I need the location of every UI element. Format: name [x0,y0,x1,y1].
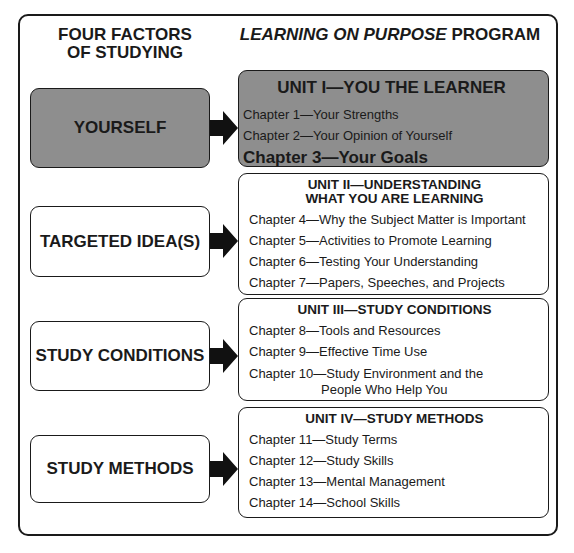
arrow-right-icon [210,452,238,486]
right-column-header: LEARNING ON PURPOSE PROGRAM [232,26,548,44]
program-name: LEARNING ON PURPOSE [240,25,447,44]
chapter-item: Chapter 14—School Skills [249,492,540,513]
factor-study-conditions: STUDY CONDITIONS [30,321,210,391]
factor-targeted-ideas: TARGETED IDEA(S) [30,206,210,277]
chapter-item: Chapter 8—Tools and Resources [249,320,540,341]
chapter-item: Chapter 1—Your Strengths [243,104,540,125]
unit-title: WHAT YOU ARE LEARNING [249,192,540,206]
header-line: FOUR FACTORS [40,26,210,44]
factor-label: TARGETED IDEA(S) [40,232,200,252]
chapter-item-continued: People Who Help You [249,382,540,398]
chapter-item-highlighted: Chapter 3—Your Goals [243,146,540,170]
factor-label: STUDY METHODS [46,459,193,479]
chapter-item: Chapter 9—Effective Time Use [249,341,540,362]
chapter-item: Chapter 2—Your Opinion of Yourself [243,125,540,146]
factor-study-methods: STUDY METHODS [30,435,210,503]
unit-2-box: UNIT II—UNDERSTANDING WHAT YOU ARE LEARN… [238,173,549,295]
unit-3-box: UNIT III—STUDY CONDITIONS Chapter 8—Tool… [238,298,549,401]
arrow-right-icon [210,339,238,373]
unit-4-box: UNIT IV—STUDY METHODS Chapter 11—Study T… [238,407,549,518]
program-suffix: PROGRAM [447,25,541,44]
unit-title: UNIT III—STUDY CONDITIONS [249,303,540,317]
arrow-right-icon [210,224,238,258]
unit-title: UNIT IV—STUDY METHODS [249,412,540,426]
factor-label: STUDY CONDITIONS [36,346,205,366]
unit-1-box: UNIT I—YOU THE LEARNER Chapter 1—Your St… [238,70,549,167]
factor-yourself: YOURSELF [30,88,210,168]
arrow-right-icon [210,111,238,145]
chapter-item: Chapter 4—Why the Subject Matter is Impo… [249,209,540,230]
factor-label: YOURSELF [74,118,167,138]
chapter-item: Chapter 7—Papers, Speeches, and Projects [249,272,540,293]
chapter-item: Chapter 5—Activities to Promote Learning [249,230,540,251]
unit-title: UNIT I—YOU THE LEARNER [243,78,540,98]
header-line: OF STUDYING [40,44,210,62]
chapter-item: Chapter 13—Mental Management [249,471,540,492]
left-column-header: FOUR FACTORS OF STUDYING [40,26,210,62]
chapter-item: Chapter 12—Study Skills [249,450,540,471]
unit-title: UNIT II—UNDERSTANDING [249,178,540,192]
chapter-item: Chapter 6—Testing Your Understanding [249,251,540,272]
chapter-item: Chapter 10—Study Environment and the [249,366,540,382]
chapter-item: Chapter 11—Study Terms [249,429,540,450]
